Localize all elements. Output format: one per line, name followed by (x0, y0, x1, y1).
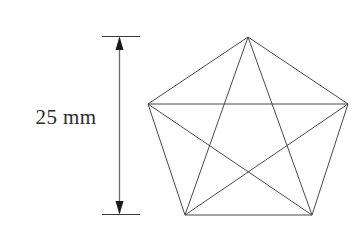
technical-drawing-svg: 25 mm (0, 0, 362, 226)
figure-container: 25 mm (0, 0, 362, 226)
dimension-label: 25 mm (36, 105, 97, 129)
